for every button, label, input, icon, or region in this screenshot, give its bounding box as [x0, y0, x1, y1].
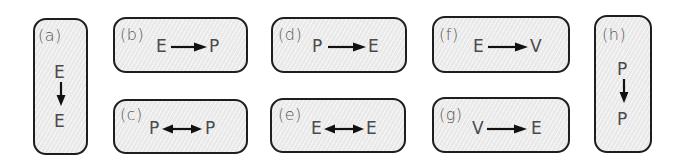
panel-b-source: E	[156, 38, 167, 55]
double-arrow-icon	[324, 124, 364, 134]
panel-c-target: P	[205, 120, 215, 137]
panel-f-label: (f)	[439, 27, 459, 43]
panel-h: (h) P P	[594, 15, 652, 153]
panel-e-source: E	[311, 120, 322, 137]
panel-h-target: P	[617, 111, 627, 128]
panel-g: (g) V E	[432, 97, 570, 153]
arrow-right-icon	[487, 124, 527, 134]
panel-b-target: P	[209, 38, 219, 55]
panel-f-source: E	[473, 38, 484, 55]
panel-a-label: (a)	[38, 28, 62, 44]
panel-g-target: E	[531, 120, 542, 137]
panel-c-source: P	[149, 120, 159, 137]
panel-g-source: V	[472, 120, 484, 137]
panel-h-source: P	[617, 61, 627, 78]
panel-d: (d) P E	[271, 17, 407, 73]
arrow-down-icon	[56, 82, 66, 106]
arrow-down-icon	[619, 79, 629, 103]
panel-d-source: P	[312, 38, 322, 55]
panel-d-label: (d)	[278, 27, 302, 43]
arrow-right-icon	[488, 42, 528, 52]
panel-c: (c) P P	[113, 99, 248, 154]
panel-e: (e) E E	[270, 98, 406, 153]
panel-h-label: (h)	[602, 27, 626, 43]
panel-a: (a) E E	[33, 18, 88, 155]
panel-b: (b) E P	[113, 17, 248, 73]
panel-f: (f) E V	[432, 16, 570, 73]
panel-c-label: (c)	[120, 107, 143, 123]
panel-a-source: E	[54, 64, 65, 81]
panel-a-target: E	[54, 113, 65, 130]
panel-d-target: E	[368, 38, 379, 55]
panel-b-label: (b)	[120, 27, 144, 43]
arrow-right-icon	[171, 42, 207, 52]
panel-e-target: E	[366, 120, 377, 137]
panel-e-label: (e)	[278, 107, 302, 123]
panel-g-label: (g)	[439, 107, 463, 123]
double-arrow-icon	[162, 124, 202, 134]
arrow-right-icon	[328, 42, 366, 52]
panel-f-target: V	[530, 38, 542, 55]
